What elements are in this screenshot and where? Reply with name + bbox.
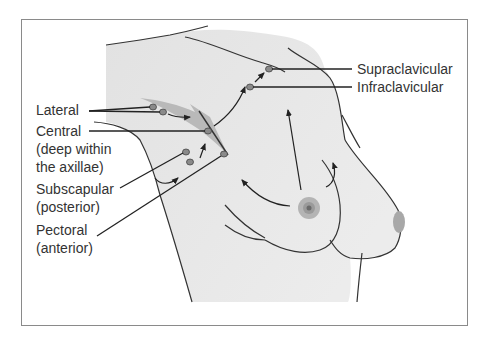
node-subscapular-2 <box>187 159 194 165</box>
node-subscapular-1 <box>183 149 190 155</box>
label-supraclavicular: Supraclavicular <box>357 61 453 78</box>
node-supraclavicular <box>266 66 273 72</box>
right-torso-line <box>357 253 362 302</box>
label-infraclavicular: Infraclavicular <box>357 79 443 96</box>
label-lateral: Lateral <box>36 102 79 119</box>
node-pectoral <box>221 151 228 157</box>
node-central <box>205 128 212 134</box>
areola-side <box>393 211 405 233</box>
label-subscapular-detail: (posterior) <box>36 199 100 216</box>
label-central-detail-1: (deep within <box>36 141 112 158</box>
label-pectoral: Pectoral <box>36 222 87 239</box>
label-central: Central <box>36 123 81 140</box>
label-central-detail-2: the axillae) <box>36 159 104 176</box>
label-pectoral-detail: (anterior) <box>36 240 93 257</box>
node-infraclavicular <box>247 84 254 90</box>
label-subscapular: Subscapular <box>36 181 114 198</box>
node-lateral-2 <box>160 109 167 115</box>
node-lateral-1 <box>150 104 157 110</box>
